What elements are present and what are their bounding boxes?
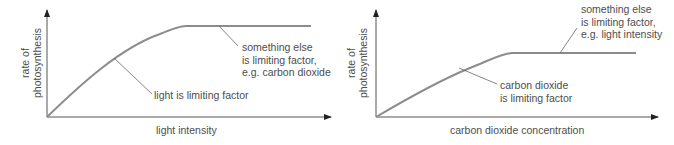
x-axis-label: carbon dioxide concentration xyxy=(450,124,584,137)
y-axis-label: rate of photosynthesis xyxy=(345,18,369,108)
annotation-plateau: something else is limiting factor, e.g. … xyxy=(242,41,331,79)
leader-line-rising xyxy=(114,58,152,94)
annotation-co2-limiting: carbon dioxide is limiting factor xyxy=(500,79,572,104)
x-axis-label: light intensity xyxy=(156,124,217,137)
leader-line-rising xyxy=(459,68,497,84)
leader-line-plateau xyxy=(560,28,577,53)
annotation-light-limiting: light is limiting factor xyxy=(154,89,249,102)
y-axis-label: rate of photosynthesis xyxy=(19,18,43,108)
annotation-plateau: something else is limiting factor, e.g. … xyxy=(581,3,662,41)
leader-line-plateau xyxy=(219,26,238,46)
